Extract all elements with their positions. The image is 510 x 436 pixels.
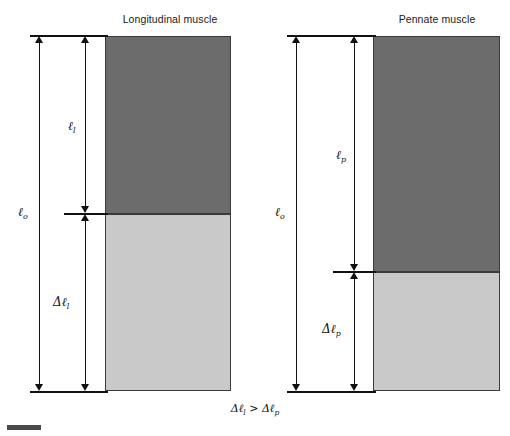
pennate-bottom-tick [287,391,376,393]
pennate-delta-arrow-bottom [350,384,358,391]
pennate-lp-arrow-bottom [350,264,358,271]
pennate-bar-dark-segment [373,36,500,272]
pennate-lp-arrow-top [350,36,358,43]
figure-caption: Δℓl > Δℓp [180,402,330,417]
longitudinal-ll-label: ℓl [68,119,76,135]
pennate-delta-arrow-top [350,272,358,279]
pennate-lp-line [354,38,355,270]
longitudinal-ll-line [85,38,86,212]
longitudinal-lo-arrow-top [35,36,43,43]
longitudinal-bottom-tick [30,391,108,393]
longitudinal-ll-arrow-bottom [81,206,89,213]
pennate-lp-label: ℓp [336,148,346,164]
pennate-lo-line [296,38,297,389]
pennate-lo-arrow-top [292,36,300,43]
longitudinal-lo-label: ℓo [18,205,28,221]
panel-title-longitudinal: Longitudinal muscle [105,13,235,25]
pennate-bar-light-segment [373,272,500,391]
longitudinal-ll-arrow-top [81,36,89,43]
pennate-top-tick [287,35,376,37]
pennate-delta-line [354,274,355,389]
longitudinal-delta-line [85,216,86,389]
muscle-architecture-figure: Longitudinal muscle ℓo ℓl Δℓl Pennate mu… [0,0,510,436]
pennate-lo-arrow-bottom [292,384,300,391]
pennate-delta-label: Δℓp [322,322,341,338]
panel-title-pennate: Pennate muscle [373,13,501,25]
corner-scale-rule [7,425,41,430]
longitudinal-bar-light-segment [105,214,231,391]
longitudinal-bar-dark-segment [105,36,231,214]
longitudinal-lo-arrow-bottom [35,384,43,391]
longitudinal-lo-line [39,38,40,389]
pennate-lo-label: ℓo [275,205,285,221]
longitudinal-delta-label: Δℓl [53,295,69,311]
longitudinal-delta-arrow-bottom [81,384,89,391]
longitudinal-delta-arrow-top [81,214,89,221]
